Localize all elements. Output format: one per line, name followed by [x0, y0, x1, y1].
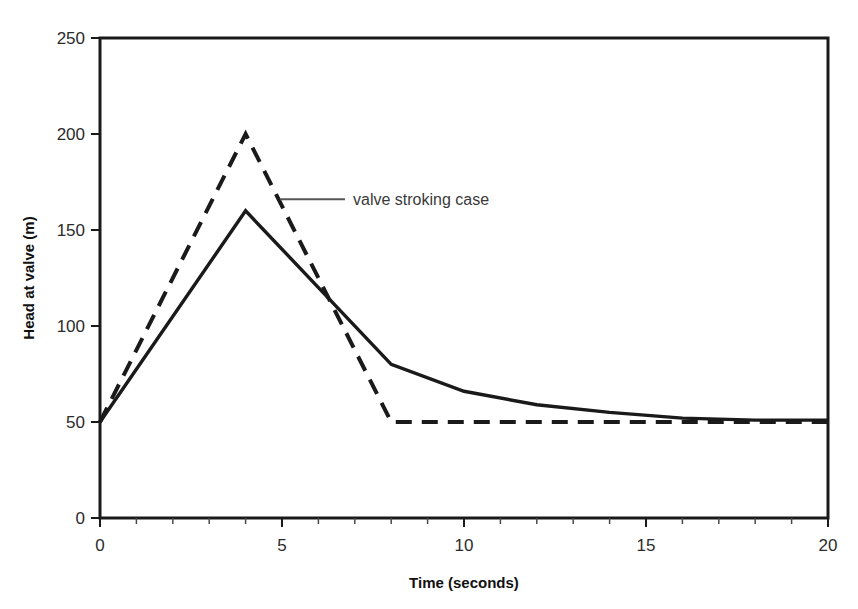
- x-tick-label: 5: [277, 536, 286, 555]
- x-axis-title: Time (seconds): [409, 574, 519, 591]
- data-series-group: [100, 134, 828, 422]
- x-tick-label: 20: [819, 536, 838, 555]
- x-tick-label: 10: [455, 536, 474, 555]
- plot-frame: [100, 38, 828, 518]
- y-axis-tick-labels: 050100150200250: [57, 29, 85, 528]
- x-tick-label: 15: [637, 536, 656, 555]
- y-tick-label: 0: [76, 509, 85, 528]
- y-tick-label: 100: [57, 317, 85, 336]
- chart-figure: 050100150200250 05101520 Time (seconds) …: [0, 0, 858, 609]
- x-axis-tick-labels: 05101520: [95, 536, 837, 555]
- x-tick-label: 0: [95, 536, 104, 555]
- line-chart: 050100150200250 05101520 Time (seconds) …: [0, 0, 858, 609]
- series-line: [100, 134, 828, 422]
- y-tick-label: 50: [66, 413, 85, 432]
- y-tick-label: 150: [57, 221, 85, 240]
- annotation-label: valve stroking case: [353, 191, 489, 208]
- y-tick-label: 250: [57, 29, 85, 48]
- series-line: [100, 211, 828, 422]
- y-axis-title: Head at valve (m): [20, 216, 37, 339]
- y-tick-label: 200: [57, 125, 85, 144]
